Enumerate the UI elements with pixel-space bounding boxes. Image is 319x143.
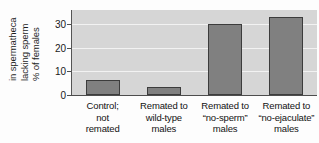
bar-slot: [72, 10, 133, 95]
x-axis-tick-label-line: “no-sperm”: [196, 112, 255, 124]
y-axis-title-line-1: % of females: [30, 27, 42, 81]
y-axis-tick-label: 0: [46, 90, 66, 101]
x-axis-tick-label-line: males: [134, 123, 193, 135]
y-axis-tick-labels: 0102030: [46, 0, 66, 98]
x-axis-tick-labels: Control;notrematedRemated towild-typemal…: [72, 100, 317, 143]
x-axis-tick-label-line: Remated to: [196, 100, 255, 112]
bar-slot: [133, 10, 194, 95]
x-axis-tick-label: Remated towild-typemales: [133, 100, 194, 143]
x-axis-tick-label-line: males: [257, 123, 316, 135]
bar: [269, 17, 303, 95]
x-axis-tick-label-line: Remated to: [257, 100, 316, 112]
y-axis-title-line-3: in spermatheca: [7, 17, 19, 81]
x-axis-tick-label-line: wild-type: [134, 112, 193, 124]
y-axis-tick-label: 20: [46, 42, 66, 53]
x-axis-tick-label-line: males: [196, 123, 255, 135]
bar: [86, 80, 120, 95]
bar-slot: [195, 10, 256, 95]
x-axis-tick-label: Remated to“no-sperm”males: [195, 100, 256, 143]
x-axis-tick-label: Remated to“no-ejaculate”males: [256, 100, 317, 143]
y-axis-title: % of females lacking sperm in spermathec…: [0, 0, 48, 98]
bar-slot: [256, 10, 317, 95]
plot-area: [72, 10, 317, 95]
bar: [147, 87, 181, 95]
x-axis-tick-label-line: not: [73, 112, 132, 124]
bar: [208, 24, 242, 95]
y-axis-tick-label: 10: [46, 66, 66, 77]
x-axis-tick-label-line: Remated to: [134, 100, 193, 112]
bars-container: [72, 10, 317, 95]
x-axis-tick-label-line: “no-ejaculate”: [257, 112, 316, 124]
bar-chart-figure: % of females lacking sperm in spermathec…: [0, 0, 319, 143]
x-axis-line: [71, 95, 317, 96]
y-axis-tick-label: 30: [46, 19, 66, 30]
x-axis-tick-label-line: remated: [73, 123, 132, 135]
x-axis-tick-label-line: Control;: [73, 100, 132, 112]
y-axis-title-line-2: lacking sperm: [18, 23, 30, 80]
x-axis-tick-label: Control;notremated: [72, 100, 133, 143]
